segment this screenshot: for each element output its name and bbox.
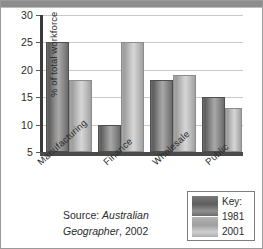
legend-item-1981: 1981 [222, 209, 254, 224]
legend-labels: Key: 1981 2001 [222, 194, 254, 239]
source-year: , 2002 [119, 225, 148, 237]
legend-box: Key: 1981 2001 [187, 191, 255, 241]
source-publication-part1: Australian [102, 209, 149, 221]
bar-finance-2001 [121, 42, 144, 152]
source-caption: Source: Australian Geographer, 2002 [63, 207, 185, 239]
source-prefix: Source: [63, 209, 102, 221]
y-tick-label-5: 5 [27, 146, 33, 158]
y-tick-label-15: 15 [21, 91, 33, 103]
legend-item-2001: 2001 [222, 224, 254, 239]
y-tick-20 [36, 70, 40, 71]
y-tick-10 [36, 125, 40, 126]
y-tick-label-20: 20 [21, 64, 33, 76]
source-line-1: Source: Australian [63, 207, 185, 223]
gridline-30 [43, 15, 243, 16]
source-line-2: Geographer, 2002 [63, 223, 185, 239]
y-tick-5 [36, 152, 40, 153]
y-tick-30 [36, 15, 40, 16]
legend-swatch [192, 196, 218, 237]
y-tick-label-30: 30 [21, 9, 33, 21]
top-banner-underline [1, 7, 263, 8]
source-publication-part2: Geographer [63, 225, 119, 237]
y-axis-line [40, 15, 43, 152]
y-tick-label-25: 25 [21, 36, 33, 48]
bar-manufacturing-2001 [69, 80, 92, 152]
y-axis-title: % of total workforce [48, 12, 59, 97]
legend-title: Key: [222, 194, 254, 209]
chart-figure: 30 25 20 15 10 5 % of total workforce Ma… [0, 0, 263, 249]
legend-swatch-1981 [192, 196, 218, 216]
y-tick-15 [36, 97, 40, 98]
legend-swatch-2001 [192, 217, 218, 237]
y-tick-label-10: 10 [21, 119, 33, 131]
y-tick-25 [36, 42, 40, 43]
